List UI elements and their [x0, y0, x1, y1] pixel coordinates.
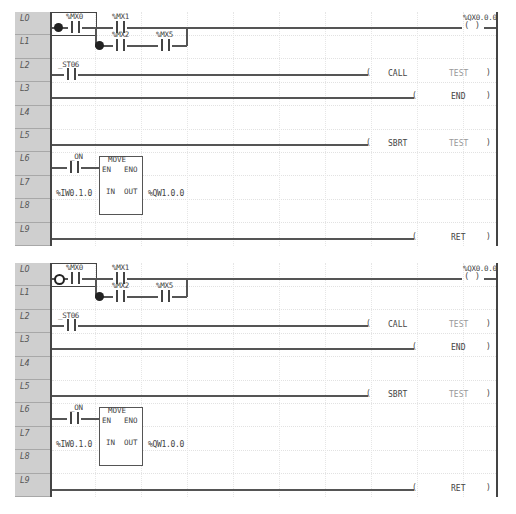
block-pin-eno: ENO	[124, 165, 138, 174]
ladder-canvas[interactable]: %MX0 %MX1 %MX2 %MX5 %QX0.0.0 ( ) _ST06 (…	[50, 12, 499, 246]
grid-line	[325, 12, 326, 246]
rung-wire	[52, 144, 368, 146]
row-label: L2	[15, 59, 50, 82]
contact-label: %MX0	[66, 263, 83, 272]
bracket-close: )	[486, 389, 491, 398]
grid-line	[279, 263, 280, 497]
branch-wire	[186, 278, 188, 297]
contact-label: %MX0	[66, 12, 83, 21]
rung-wire	[484, 27, 496, 29]
grid-line	[52, 473, 496, 474]
contact-label: %MX1	[112, 12, 129, 21]
row-label: L6	[15, 152, 50, 175]
instruction-operand: TEST	[449, 139, 468, 148]
bracket-open: (	[412, 232, 417, 241]
contact-label: _ON	[70, 152, 83, 161]
grid-line	[52, 356, 496, 357]
ladder-panel-top[interactable]: L0 L1 L2 L3 L4 L5 L6 L7 L8 L9	[15, 12, 499, 246]
grid-line	[52, 222, 496, 223]
function-block-move[interactable]: MOVE EN ENO IN OUT	[99, 407, 143, 466]
block-input-operand[interactable]: %IW0.1.0	[56, 189, 92, 198]
grid-line	[463, 263, 464, 497]
grid-line	[371, 12, 372, 246]
contact-label: %MX5	[156, 281, 173, 290]
instruction-call[interactable]: CALL	[388, 320, 407, 329]
bracket-open: (	[366, 138, 371, 147]
row-label: L1	[15, 35, 50, 58]
contact-no[interactable]	[158, 290, 172, 302]
branch-wire	[186, 27, 188, 46]
contact-no[interactable]	[68, 21, 82, 33]
rung-wire	[52, 489, 414, 491]
bracket-close: )	[486, 342, 491, 351]
contact-no[interactable]	[64, 319, 78, 331]
contact-no[interactable]	[64, 68, 78, 80]
bracket-open: (	[366, 319, 371, 328]
rung-wire	[52, 325, 368, 327]
block-pin-out: OUT	[124, 187, 138, 196]
bracket-close: )	[486, 91, 491, 100]
block-pin-en: EN	[102, 416, 111, 425]
contact-label: %MX1	[112, 263, 129, 272]
right-power-rail	[496, 12, 498, 246]
output-coil[interactable]: ( )	[464, 20, 480, 30]
block-output-operand[interactable]: %QW1.0.0	[148, 189, 184, 198]
bracket-open: (	[366, 389, 371, 398]
branch-marker	[95, 41, 104, 50]
instruction-sbrt[interactable]: SBRT	[388, 139, 407, 148]
grid-line	[52, 403, 496, 404]
contact-label: %MX2	[112, 30, 129, 39]
instruction-call[interactable]: CALL	[388, 69, 407, 78]
block-pin-eno: ENO	[124, 416, 138, 425]
instruction-end[interactable]: END	[451, 92, 465, 101]
ladder-panel-bottom[interactable]: L0 L1 L2 L3 L4 L5 L6 L7 L8 L9	[15, 263, 499, 497]
row-label: L0	[15, 12, 50, 35]
function-block-move[interactable]: MOVE EN ENO IN OUT	[99, 156, 143, 215]
contact-label: %MX2	[112, 281, 129, 290]
block-input-operand[interactable]: %IW0.1.0	[56, 440, 92, 449]
left-power-rail	[50, 263, 52, 497]
block-pin-en: EN	[102, 165, 111, 174]
bracket-open: (	[412, 483, 417, 492]
row-label: L4	[15, 357, 50, 380]
bracket-open: (	[366, 68, 371, 77]
grid-line	[233, 263, 234, 497]
branch-wire	[95, 45, 187, 47]
block-pin-out: OUT	[124, 438, 138, 447]
ladder-canvas[interactable]: %MX0 %MX1 %MX2 %MX5 %QX0.0.0 ( ) _ST06 (…	[50, 263, 499, 497]
row-label: L2	[15, 310, 50, 333]
grid-line	[52, 309, 496, 310]
contact-no[interactable]	[68, 272, 82, 284]
right-power-rail	[496, 263, 498, 497]
block-output-operand[interactable]: %QW1.0.0	[148, 440, 184, 449]
row-label: L9	[15, 474, 50, 497]
output-coil[interactable]: ( )	[464, 271, 480, 281]
instruction-ret[interactable]: RET	[451, 484, 465, 493]
contact-no[interactable]	[113, 290, 127, 302]
contact-no[interactable]	[113, 39, 127, 51]
bracket-close: )	[486, 138, 491, 147]
instruction-operand: TEST	[449, 69, 468, 78]
grid-line	[52, 82, 496, 83]
row-label: L9	[15, 223, 50, 246]
instruction-end[interactable]: END	[451, 343, 465, 352]
row-label: L1	[15, 286, 50, 309]
contact-no[interactable]	[158, 39, 172, 51]
grid-line	[325, 263, 326, 497]
contact-label: %MX5	[156, 30, 173, 39]
row-label-column: L0 L1 L2 L3 L4 L5 L6 L7 L8 L9	[15, 12, 50, 246]
row-label-column: L0 L1 L2 L3 L4 L5 L6 L7 L8 L9	[15, 263, 50, 497]
instruction-sbrt[interactable]: SBRT	[388, 390, 407, 399]
rung-wire	[52, 348, 414, 350]
grid-line	[187, 263, 188, 497]
grid-line	[463, 12, 464, 246]
contact-no[interactable]	[67, 161, 81, 173]
grid-line	[52, 333, 496, 334]
contact-no[interactable]	[67, 412, 81, 424]
instruction-operand: TEST	[449, 320, 468, 329]
grid-line	[417, 263, 418, 497]
row-label: L8	[15, 199, 50, 222]
row-label: L3	[15, 333, 50, 356]
grid-line	[52, 58, 496, 59]
instruction-ret[interactable]: RET	[451, 233, 465, 242]
